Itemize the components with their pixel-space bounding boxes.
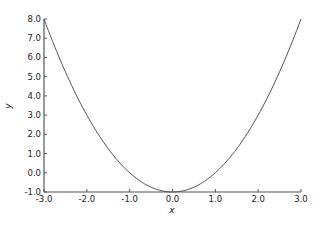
y-tick-label: 1.0 — [27, 149, 41, 159]
y-tick-label: 2.0 — [27, 129, 41, 139]
x-axis: -3.0-2.0-1.00.01.02.03.0 — [36, 189, 308, 204]
y-tick-label: 5.0 — [27, 72, 41, 82]
x-axis-label: x — [168, 205, 175, 215]
series-line — [44, 19, 301, 192]
y-axis: -1.00.01.02.03.04.05.06.07.08.0 — [24, 14, 47, 197]
y-tick-label: 3.0 — [27, 110, 41, 120]
x-tick-label: 3.0 — [294, 194, 308, 204]
data-curve — [44, 19, 301, 192]
x-tick-label: -2.0 — [79, 194, 96, 204]
y-axis-label: y — [3, 103, 13, 110]
x-tick-label: 1.0 — [209, 194, 223, 204]
x-tick-label: -3.0 — [36, 194, 53, 204]
line-chart: -1.00.01.02.03.04.05.06.07.08.0 -3.0-2.0… — [0, 0, 322, 225]
y-tick-label: 7.0 — [27, 33, 41, 43]
x-tick-label: 0.0 — [166, 194, 180, 204]
y-tick-label: 0.0 — [27, 168, 41, 178]
x-tick-label: -1.0 — [121, 194, 138, 204]
y-tick-label: 4.0 — [27, 91, 41, 101]
x-tick-label: 2.0 — [251, 194, 265, 204]
y-tick-label: 6.0 — [27, 52, 41, 62]
y-tick-label: 8.0 — [27, 14, 41, 24]
